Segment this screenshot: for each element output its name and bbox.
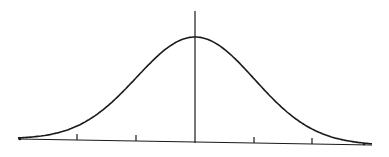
curve-end-right [363, 143, 366, 146]
normal-distribution-diagram [0, 0, 389, 157]
curve-end-left [19, 138, 22, 141]
